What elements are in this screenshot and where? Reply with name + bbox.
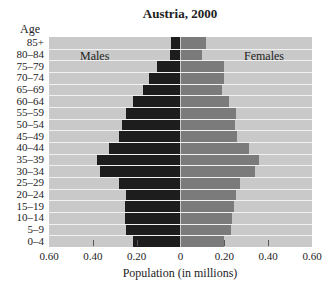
- pyramid-row: [49, 189, 312, 201]
- female-bar: [181, 155, 260, 166]
- pyramid-row: [49, 119, 312, 131]
- male-bar: [157, 61, 180, 72]
- x-tick-label: 0: [178, 250, 184, 262]
- female-bar: [181, 166, 256, 177]
- x-tick-mark: [268, 240, 269, 246]
- male-bar: [126, 108, 181, 119]
- female-bar: [181, 85, 223, 96]
- female-bar: [181, 96, 229, 107]
- female-bar: [181, 201, 234, 212]
- age-label: 85+: [0, 37, 44, 48]
- male-bar: [109, 143, 181, 154]
- pyramid-row: [49, 177, 312, 189]
- x-tick-label: 0.40: [259, 250, 278, 262]
- age-label: 50–54: [0, 119, 44, 130]
- pyramid-row: [49, 235, 312, 247]
- age-label: 25–29: [0, 177, 44, 188]
- pyramid-row: [49, 72, 312, 84]
- male-bar: [126, 190, 180, 201]
- males-label: Males: [80, 49, 109, 64]
- pyramid-row: [49, 200, 312, 212]
- age-label: 75–79: [0, 61, 44, 72]
- male-bar: [97, 155, 180, 166]
- female-bar: [181, 61, 224, 72]
- female-bar: [181, 131, 238, 142]
- female-bar: [181, 50, 203, 61]
- plot-area: [49, 37, 312, 247]
- x-axis-label: Population (in millions): [0, 266, 336, 281]
- age-label: 10–14: [0, 212, 44, 223]
- male-bar: [125, 213, 181, 224]
- x-tick-label: 0.40: [83, 250, 102, 262]
- male-bar: [126, 225, 181, 236]
- pyramid-row: [49, 95, 312, 107]
- male-bar: [133, 96, 181, 107]
- male-bar: [119, 178, 180, 189]
- female-bar: [181, 120, 235, 131]
- pyramid-row: [49, 154, 312, 166]
- male-bar: [143, 85, 180, 96]
- age-label: 60–64: [0, 96, 44, 107]
- male-bar: [149, 73, 181, 84]
- age-label: 20–24: [0, 189, 44, 200]
- female-bar: [181, 225, 231, 236]
- pyramid-row: [49, 107, 312, 119]
- age-label: 0–4: [0, 236, 44, 247]
- x-tick-label: 0.20: [215, 250, 234, 262]
- x-tick-label: 0.20: [127, 250, 146, 262]
- male-bar: [125, 201, 181, 212]
- x-tick-label: 0.60: [302, 250, 321, 262]
- male-bar: [171, 37, 181, 49]
- pyramid-row: [49, 37, 312, 49]
- male-bar: [170, 50, 181, 61]
- female-bar: [181, 213, 232, 224]
- age-label: 70–74: [0, 72, 44, 83]
- pyramid-row: [49, 165, 312, 177]
- age-label: 55–59: [0, 107, 44, 118]
- x-tick-mark: [137, 240, 138, 246]
- age-axis-header: Age: [20, 22, 40, 37]
- female-bar: [181, 37, 206, 49]
- female-bar: [181, 73, 224, 84]
- pyramid-row: [49, 84, 312, 96]
- male-bar: [100, 166, 180, 177]
- age-label: 30–34: [0, 166, 44, 177]
- female-bar: [181, 190, 236, 201]
- female-bar: [181, 143, 249, 154]
- pyramid-row: [49, 212, 312, 224]
- male-bar: [119, 131, 180, 142]
- chart-title: Austria, 2000: [0, 6, 336, 22]
- females-label: Females: [244, 49, 284, 64]
- age-label: 40–44: [0, 142, 44, 153]
- age-label: 15–19: [0, 201, 44, 212]
- x-tick-mark: [93, 240, 94, 246]
- x-tick-label: 0.60: [39, 250, 58, 262]
- age-label: 5–9: [0, 224, 44, 235]
- female-bar: [181, 108, 237, 119]
- age-label: 35–39: [0, 154, 44, 165]
- age-label: 65–69: [0, 84, 44, 95]
- female-bar: [181, 178, 241, 189]
- x-tick-mark: [224, 240, 225, 246]
- pyramid-row: [49, 224, 312, 236]
- male-bar: [122, 120, 181, 131]
- age-label: 80–84: [0, 49, 44, 60]
- female-bar: [181, 236, 225, 247]
- age-label: 45–49: [0, 131, 44, 142]
- pyramid-row: [49, 142, 312, 154]
- pyramid-row: [49, 130, 312, 142]
- male-bar: [133, 236, 180, 247]
